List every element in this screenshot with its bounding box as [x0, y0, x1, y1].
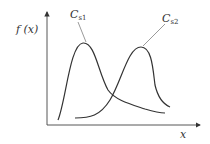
diagram-canvas	[0, 0, 210, 144]
curve-cs2	[75, 47, 170, 118]
curve-label-cs1: Cs1	[70, 9, 86, 22]
x-axis-label: x	[180, 129, 186, 140]
curve-label-cs2: Cs2	[162, 13, 178, 26]
x-axis-label-text: x	[180, 128, 186, 141]
leader-line-cs2	[143, 24, 165, 46]
curve-label-cs1-sub: s1	[78, 14, 86, 22]
y-axis-label: f (x)	[16, 24, 38, 35]
leader-line-cs1	[78, 22, 86, 42]
curve-label-cs2-sub: s2	[170, 18, 178, 26]
y-axis-label-text: f (x)	[16, 23, 38, 36]
